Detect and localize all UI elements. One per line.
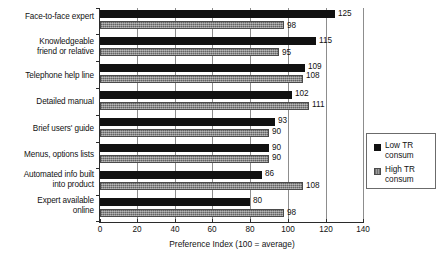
bar-low-tr bbox=[100, 171, 262, 179]
bar-value-label: 90 bbox=[272, 128, 281, 137]
bar-high-tr bbox=[100, 102, 309, 110]
x-axis-tick-label: 0 bbox=[88, 225, 112, 234]
bar-value-label: 90 bbox=[272, 154, 281, 163]
bar-high-tr bbox=[100, 129, 269, 137]
bar-low-tr bbox=[100, 64, 305, 72]
x-axis-tick bbox=[137, 219, 138, 222]
bar-high-tr bbox=[100, 48, 279, 56]
bar-low-tr bbox=[100, 91, 292, 99]
category-label: Detailed manual bbox=[0, 97, 94, 107]
x-axis-tick bbox=[250, 219, 251, 222]
bar-low-tr bbox=[100, 37, 316, 45]
bar-value-label: 125 bbox=[338, 10, 352, 19]
bar-value-label: 111 bbox=[312, 101, 324, 110]
bar-value-label: 90 bbox=[272, 144, 281, 153]
x-axis-title: Preference Index (100 = average) bbox=[92, 239, 372, 249]
bar-value-label: 93 bbox=[278, 117, 287, 126]
gridline bbox=[363, 8, 364, 222]
bar-value-label: 86 bbox=[265, 170, 274, 179]
x-axis-tick bbox=[212, 219, 213, 222]
x-axis-tick bbox=[100, 219, 101, 222]
x-axis-tick bbox=[175, 219, 176, 222]
x-axis-tick bbox=[288, 219, 289, 222]
legend-label-high-tr: High TR consum bbox=[385, 165, 415, 184]
bar-low-tr bbox=[100, 198, 250, 206]
category-label: Brief users' guide bbox=[0, 124, 94, 134]
bar-value-label: 98 bbox=[287, 22, 296, 31]
bar-high-tr bbox=[100, 155, 269, 163]
bar-high-tr bbox=[100, 209, 284, 217]
category-label: Expert available online bbox=[0, 196, 94, 215]
bar-low-tr bbox=[100, 10, 335, 18]
chart-legend: Low TR consum High TR consum bbox=[366, 133, 436, 189]
bar-high-tr bbox=[100, 21, 284, 29]
gray-square-icon bbox=[374, 168, 381, 175]
bar-value-label: 80 bbox=[253, 197, 262, 206]
black-square-icon bbox=[374, 144, 381, 151]
category-label: Telephone help line bbox=[0, 71, 94, 81]
bar-low-tr bbox=[100, 144, 269, 152]
category-label: Face-to-face expert bbox=[0, 12, 94, 22]
category-label: Automated info built into product bbox=[0, 170, 94, 189]
bar-low-tr bbox=[100, 118, 275, 126]
x-axis-tick bbox=[326, 219, 327, 222]
category-label: Knowledgeable friend or relative bbox=[0, 37, 94, 56]
bar-high-tr bbox=[100, 75, 303, 83]
x-axis-tick-label: 100 bbox=[276, 225, 300, 234]
x-axis-tick-label: 20 bbox=[125, 225, 149, 234]
bar-high-tr bbox=[100, 182, 303, 190]
x-axis-tick bbox=[363, 219, 364, 222]
bar-value-label: 108 bbox=[306, 72, 320, 81]
x-axis-tick-label: 60 bbox=[200, 225, 224, 234]
bar-value-label: 115 bbox=[319, 37, 332, 46]
x-axis-tick-label: 80 bbox=[238, 225, 262, 234]
x-axis-tick-label: 120 bbox=[314, 225, 338, 234]
category-label: Menus, options lists bbox=[0, 150, 94, 160]
x-axis-tick-label: 40 bbox=[163, 225, 187, 234]
x-axis-tick-label: 140 bbox=[351, 225, 375, 234]
legend-label-low-tr: Low TR consum bbox=[385, 141, 414, 160]
bar-value-label: 98 bbox=[287, 209, 296, 218]
bar-value-label: 102 bbox=[295, 90, 309, 99]
bar-value-label: 108 bbox=[306, 182, 320, 191]
x-axis-line bbox=[99, 222, 364, 223]
bar-value-label: 95 bbox=[282, 49, 291, 58]
